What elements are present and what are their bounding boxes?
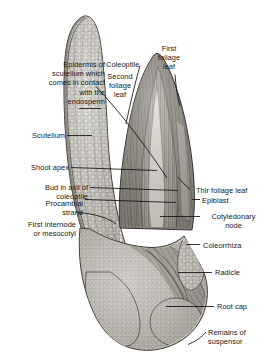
label-radicle: Radicle — [215, 268, 263, 277]
embryo-axis-lower — [70, 225, 215, 360]
label-third-foliage-leaf: Thir foliage leaf — [196, 186, 268, 195]
leader-internode — [78, 213, 116, 225]
label-epiblast: Epiblast — [202, 196, 257, 205]
scutellum-body — [60, 10, 152, 310]
label-coleorrhiza: Coleorrhiza — [203, 241, 265, 250]
label-epidermis-of-scutellum: Epidermis of scutellum which comes in co… — [8, 60, 105, 106]
leader-bud — [90, 188, 178, 191]
label-scutellum: Scutellum — [8, 131, 65, 140]
leader-second-leaf — [96, 87, 167, 179]
leader-lines — [67, 66, 214, 345]
label-first-foliage-leaf: First foliage leaf — [149, 44, 189, 72]
leader-suspensor — [188, 332, 206, 345]
label-cotyledonary-node: Cotyledonary node — [202, 212, 265, 230]
label-procambial-strand: Procambial strand — [8, 199, 83, 217]
maize-embryo-figure: Epidermis of scutellum which comes in co… — [0, 0, 271, 363]
label-remains-of-suspensor: Remains of suspensor — [208, 328, 270, 346]
leader-third-leaf — [178, 177, 190, 190]
label-root-cap: Root cap — [217, 302, 265, 311]
leader-procambial — [85, 200, 176, 203]
label-shoot-apex: Shoot apex — [8, 163, 69, 172]
label-first-internode-or-mesocotyl: First internode or mesocotyl — [4, 220, 76, 238]
leader-first-leaf — [175, 75, 180, 107]
leader-shoot-apex — [71, 168, 157, 171]
label-second-foliage-leaf: Second foliage leaf — [98, 72, 142, 100]
